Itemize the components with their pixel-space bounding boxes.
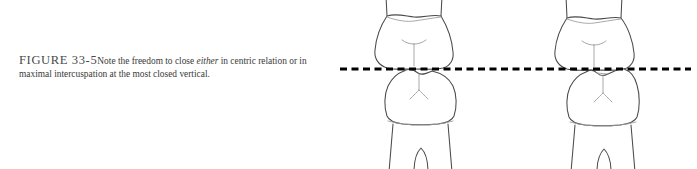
upper-root-left: [386, 0, 442, 16]
panel-maximal-intercuspation: [555, 0, 639, 169]
upper-crown-right: [555, 17, 634, 71]
panel-centric-relation: [375, 0, 456, 169]
tooth-occlusion-illustration: [0, 0, 697, 169]
upper-root-right: [566, 0, 622, 18]
lower-crown-left: [385, 70, 456, 125]
figure-root: FIGURE 33-5Note the freedom to close eit…: [0, 0, 697, 169]
lower-root-left: [389, 124, 452, 169]
lower-root-right: [571, 125, 635, 169]
